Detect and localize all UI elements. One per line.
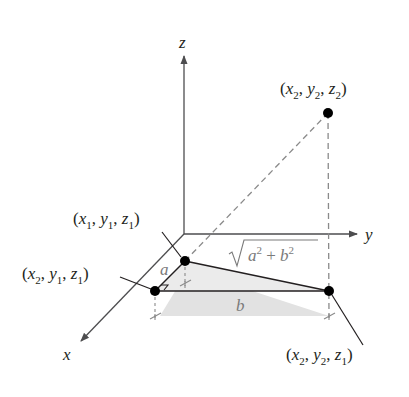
point-x2y1z1 xyxy=(150,286,160,296)
point-x1y1z1 xyxy=(180,256,190,266)
label-x2y2z1: (x2, y2, z1) xyxy=(286,345,353,367)
svg-text:a2 + b2: a2 + b2 xyxy=(248,244,294,265)
z-axis-label: z xyxy=(178,33,186,52)
segment-label-a: a xyxy=(160,260,169,279)
point-x2y2z1 xyxy=(324,286,334,296)
distance-diagram: z y x (x2, y2, z2) (x1, y1, z1) (x2, y1,… xyxy=(0,0,409,397)
y-axis-label: y xyxy=(363,225,373,244)
point-x2y2z2 xyxy=(323,108,333,118)
x-axis-label: x xyxy=(62,345,71,364)
dashed-diagonal xyxy=(185,113,328,261)
segment-label-b: b xyxy=(236,296,245,315)
leader-p3 xyxy=(332,295,363,345)
label-x2y1z1: (x2, y1, z1) xyxy=(22,264,89,286)
leader-p2 xyxy=(120,277,151,289)
hypotenuse-label: a2 + b2 xyxy=(229,240,318,266)
label-x1y1z1: (x1, y1, z1) xyxy=(73,209,140,231)
label-x2y2z2: (x2, y2, z2) xyxy=(280,79,347,101)
